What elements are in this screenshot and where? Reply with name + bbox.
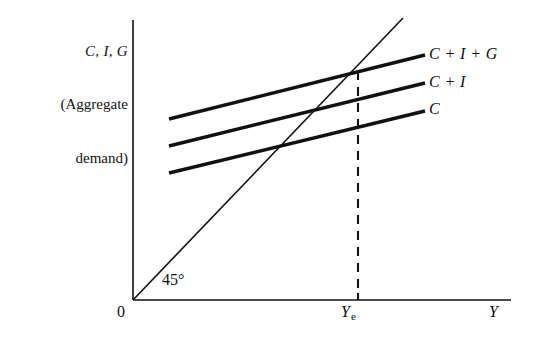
aggregate-demand-line-c-i-g	[169, 55, 425, 119]
x-axis-tick-label-ye: Ye	[341, 303, 355, 322]
y-axis-label-line-3: demand)	[8, 150, 128, 168]
x-axis-label: Y	[489, 303, 498, 322]
curve-label-c-i-g: C + I + G	[429, 45, 498, 64]
origin-label: 0	[117, 303, 125, 322]
aggregate-demand-line-c-i	[169, 83, 425, 146]
keynesian-cross-figure: C, I, G (Aggregate demand) C + I + G C +…	[0, 0, 544, 342]
consumption-line-c	[169, 111, 425, 173]
ye-subscript: e	[351, 310, 356, 322]
angle-label-45-degrees: 45°	[162, 271, 184, 290]
curve-label-c: C	[429, 100, 440, 119]
y-axis-label: C, I, G (Aggregate demand)	[8, 8, 128, 203]
ye-base: Y	[341, 303, 350, 320]
y-axis-label-line-2: (Aggregate	[8, 96, 128, 114]
forty-five-degree-line	[133, 18, 403, 300]
y-axis-label-line-1: C, I, G	[8, 43, 128, 61]
curve-label-c-i: C + I	[429, 73, 466, 92]
